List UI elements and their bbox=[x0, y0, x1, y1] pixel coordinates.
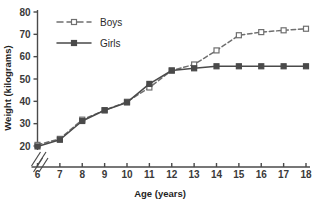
x-tick-label: 18 bbox=[300, 169, 312, 180]
x-tick-label: 7 bbox=[57, 169, 63, 180]
legend-marker-sample bbox=[72, 20, 77, 25]
x-tick-label: 17 bbox=[278, 169, 290, 180]
x-tick-label: 15 bbox=[233, 169, 245, 180]
y-axis-title: Weight (kilograms) bbox=[2, 45, 13, 130]
weight-vs-age-line-chart: 20304050607080 6789101112131415161718 Bo… bbox=[0, 0, 313, 201]
data-point-marker bbox=[236, 33, 241, 38]
data-point-marker bbox=[304, 26, 309, 31]
legend-label: Girls bbox=[100, 38, 121, 49]
data-point-marker bbox=[192, 66, 197, 71]
x-axis-title: Age (years) bbox=[134, 188, 186, 199]
y-tick-label: 20 bbox=[19, 141, 31, 152]
x-tick-label: 14 bbox=[211, 169, 223, 180]
x-tick-label: 8 bbox=[79, 169, 85, 180]
data-point-marker bbox=[169, 68, 174, 73]
data-point-marker bbox=[57, 137, 62, 142]
y-tick-label: 30 bbox=[19, 118, 31, 129]
data-point-marker bbox=[35, 144, 40, 149]
data-point-marker bbox=[259, 30, 264, 35]
data-point-marker bbox=[80, 118, 85, 123]
x-tick-label: 10 bbox=[121, 169, 133, 180]
x-tick-label: 13 bbox=[189, 169, 201, 180]
data-point-marker bbox=[281, 64, 286, 69]
data-point-marker bbox=[214, 48, 219, 53]
y-tick-label: 60 bbox=[19, 51, 31, 62]
data-point-marker bbox=[125, 100, 130, 105]
data-point-marker bbox=[147, 81, 152, 86]
data-point-marker bbox=[236, 64, 241, 69]
legend-label: Boys bbox=[100, 17, 122, 28]
y-tick-label: 40 bbox=[19, 96, 31, 107]
data-point-marker bbox=[304, 64, 309, 69]
data-point-marker bbox=[102, 108, 107, 113]
x-tick-label: 9 bbox=[102, 169, 108, 180]
data-point-marker bbox=[214, 64, 219, 69]
y-tick-label: 70 bbox=[19, 29, 31, 40]
x-tick-label: 16 bbox=[256, 169, 268, 180]
y-tick-label: 80 bbox=[19, 7, 31, 18]
y-tick-label: 50 bbox=[19, 74, 31, 85]
data-point-marker bbox=[281, 28, 286, 33]
x-tick-label: 11 bbox=[144, 169, 155, 180]
chart-canvas: 20304050607080 6789101112131415161718 Bo… bbox=[0, 0, 313, 201]
data-point-marker bbox=[259, 64, 264, 69]
x-tick-label: 12 bbox=[166, 169, 178, 180]
legend-marker-sample bbox=[72, 41, 77, 46]
